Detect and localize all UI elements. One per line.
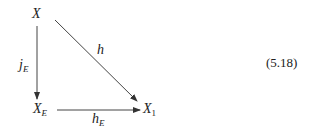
label-h-e-base: h	[92, 111, 99, 126]
node-x-e: XE	[33, 102, 47, 116]
node-x-1: X1	[143, 102, 156, 116]
node-x-1-sub: 1	[152, 108, 157, 118]
node-x-e-sub: E	[42, 108, 48, 118]
label-h: h	[97, 43, 104, 57]
node-x-e-base: X	[33, 101, 42, 116]
node-x-base: X	[32, 6, 41, 21]
label-j-e-sub: E	[23, 64, 29, 74]
node-x: X	[32, 7, 41, 21]
equation-number: (5.18)	[266, 56, 297, 69]
arrow-diagonal	[55, 20, 137, 101]
label-h-e: hE	[92, 112, 105, 126]
label-j-e: jE	[19, 58, 28, 72]
label-h-e-sub: E	[99, 118, 105, 128]
label-h-base: h	[97, 42, 104, 57]
node-x-1-base: X	[143, 101, 152, 116]
